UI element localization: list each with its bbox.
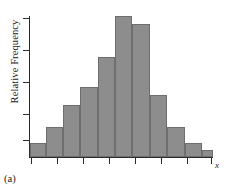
histogram-figure: Relative Frequency x (a) — [0, 0, 227, 193]
histogram-bar — [98, 57, 115, 157]
histogram-bar — [63, 105, 80, 157]
histogram-bar — [185, 143, 202, 157]
histogram-bar — [30, 143, 46, 157]
histogram-bar — [202, 150, 213, 157]
histogram-bar — [80, 87, 97, 158]
y-axis-label: Relative Frequency — [9, 2, 20, 122]
histogram-bars — [30, 16, 213, 157]
histogram-bar — [46, 127, 63, 157]
x-axis-variable-label: x — [215, 160, 219, 170]
x-axis-tick — [135, 158, 136, 164]
panel-caption: (a) — [4, 173, 16, 184]
histogram-bar — [150, 95, 167, 157]
y-axis-tick — [23, 18, 30, 19]
x-axis-tick — [211, 158, 212, 164]
histogram-bar — [167, 127, 184, 157]
y-axis-tick — [23, 82, 30, 83]
y-axis-tick — [23, 140, 30, 141]
x-axis-tick — [57, 158, 58, 164]
histogram-bar — [115, 16, 132, 157]
x-axis-tick — [109, 158, 110, 164]
x-axis-tick — [31, 158, 32, 164]
histogram-bar — [132, 24, 149, 157]
x-axis-tick — [83, 158, 84, 164]
y-axis-tick — [23, 114, 30, 115]
x-axis-tick — [187, 158, 188, 164]
x-axis-tick — [161, 158, 162, 164]
y-axis-tick — [23, 50, 30, 51]
